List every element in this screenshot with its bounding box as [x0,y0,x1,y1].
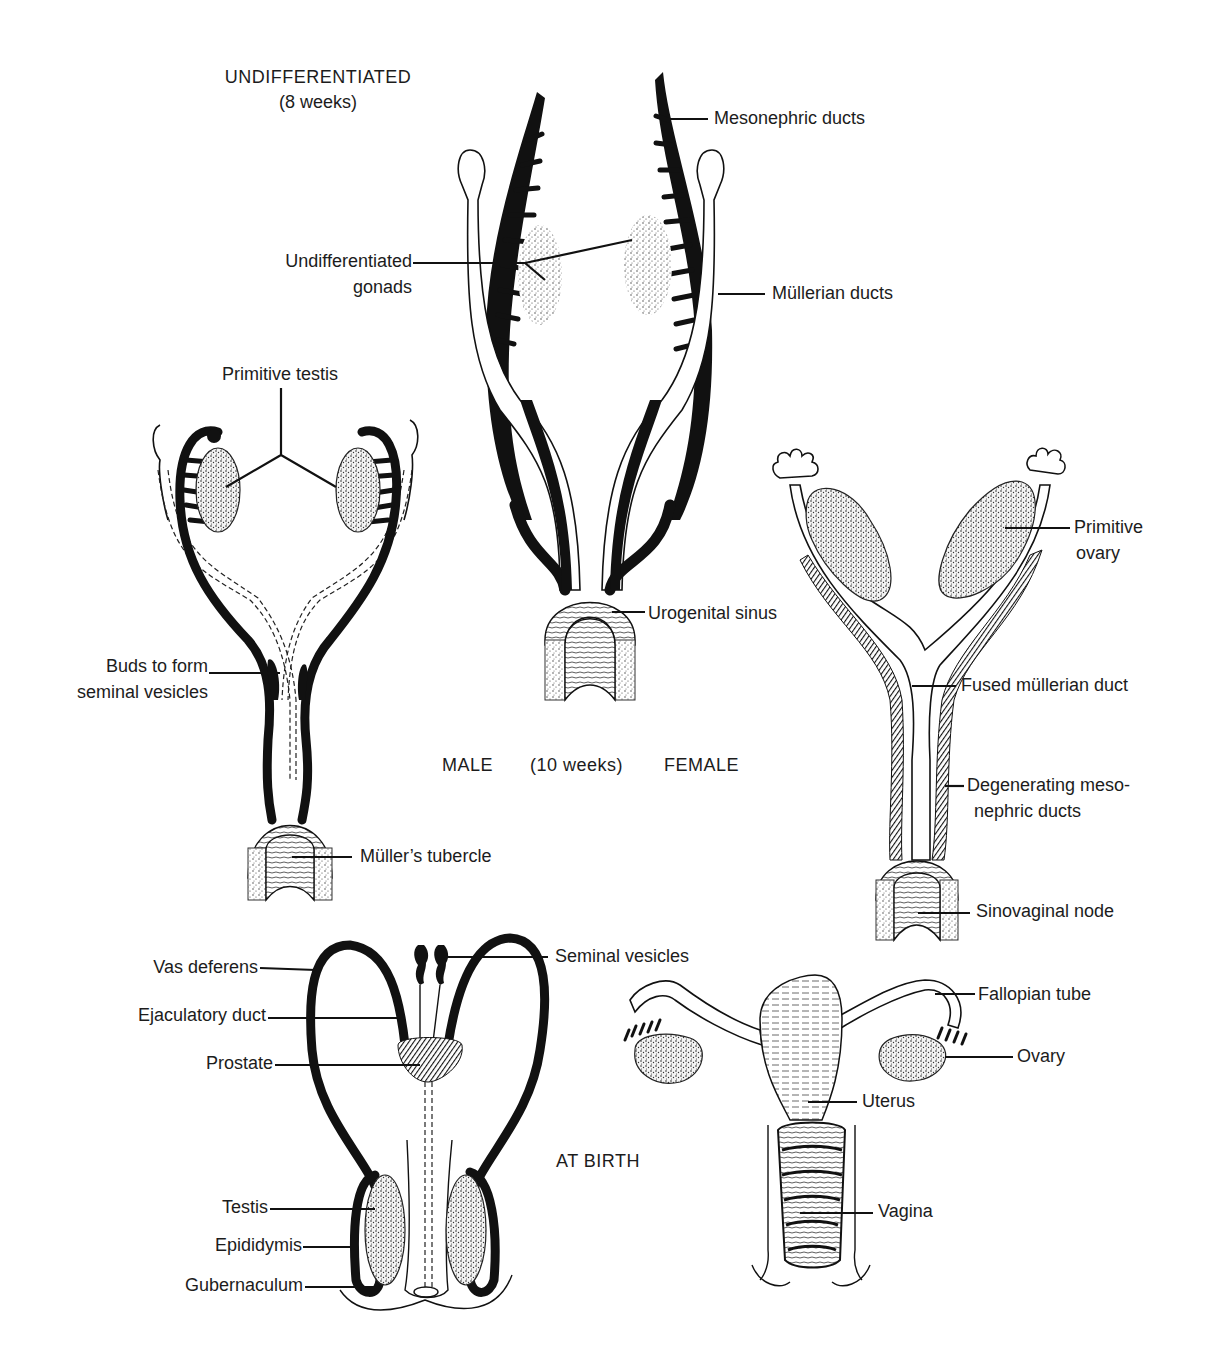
male-label: MALE [442,754,493,776]
label-fused-mullerian-duct: Fused müllerian duct [961,674,1128,696]
undifferentiated-age: (8 weeks) [268,91,368,113]
label-ovary: Ovary [1017,1045,1065,1067]
label-prostate: Prostate [120,1052,273,1074]
label-buds-2: seminal vesicles [20,681,208,703]
at-birth-title: AT BIRTH [556,1150,640,1172]
label-vagina: Vagina [878,1200,933,1222]
label-sinovaginal-node: Sinovaginal node [976,900,1114,922]
ten-weeks-label: (10 weeks) [530,754,623,776]
undifferentiated-title: UNDIFFERENTIATED [218,66,418,88]
label-ejaculatory-duct: Ejaculatory duct [60,1004,266,1026]
label-mesonephric-ducts: Mesonephric ducts [714,107,865,129]
label-vas-deferens: Vas deferens [80,956,258,978]
label-testis: Testis [150,1196,268,1218]
label-fallopian-tube: Fallopian tube [978,983,1091,1005]
label-primitive-testis: Primitive testis [180,363,380,385]
label-uterus: Uterus [862,1090,915,1112]
female-label: FEMALE [664,754,739,776]
label-mullers-tubercle: Müller’s tubercle [360,845,491,867]
label-primitive-ovary-1: Primitive [1074,516,1143,538]
label-primitive-ovary-2: ovary [1076,542,1120,564]
label-epididymis: Epididymis [140,1234,302,1256]
male-10-weeks-drawing [153,388,418,900]
male-at-birth-drawing [260,938,548,1310]
label-gubernaculum: Gubernaculum [120,1274,303,1296]
label-buds-1: Buds to form [40,655,208,677]
embryology-diagram: UNDIFFERENTIATED (8 weeks) Mesonephric d… [0,0,1217,1370]
label-seminal-vesicles: Seminal vesicles [555,945,689,967]
female-at-birth-drawing [625,975,1013,1286]
label-degenerating-1: Degenerating meso- [967,774,1130,796]
label-undifferentiated-gonads-1: Undifferentiated [200,250,412,272]
label-mullerian-ducts: Müllerian ducts [772,282,893,304]
label-degenerating-2: nephric ducts [974,800,1081,822]
label-urogenital-sinus: Urogenital sinus [648,602,777,624]
label-undifferentiated-gonads-2: gonads [300,276,412,298]
